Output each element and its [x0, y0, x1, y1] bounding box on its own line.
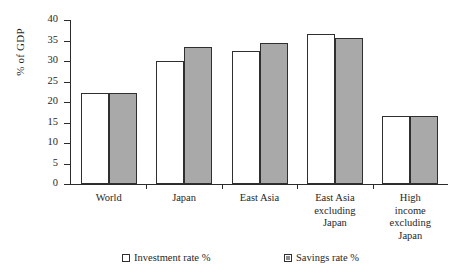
chart-legend: Investment rate % Savings rate % [0, 252, 462, 270]
y-tick-label: 35 [48, 34, 59, 45]
bar-group [81, 20, 137, 184]
y-tick-mark [64, 61, 70, 62]
bar-chart-figure: % of GDP 0510152025303540 WorldJapanEast… [0, 0, 462, 280]
x-category-label: HighincomeexcludingJapan [368, 192, 452, 242]
y-tick-mark [64, 123, 70, 124]
y-tick-label: 15 [48, 116, 59, 127]
bar-investment-rate [232, 51, 260, 184]
x-tick-mark [297, 184, 298, 189]
bar-group [382, 20, 438, 184]
bar-savings-rate [184, 47, 212, 184]
x-tick-mark [373, 184, 374, 189]
bar-investment-rate [156, 61, 184, 184]
x-axis-line [70, 184, 448, 185]
y-tick-mark [64, 143, 70, 144]
filled-square-icon [284, 254, 292, 262]
y-tick-mark [64, 164, 70, 165]
bar-group [307, 20, 363, 184]
y-tick-label: 25 [48, 75, 59, 86]
y-tick-label: 0 [53, 177, 58, 188]
y-tick-mark [64, 20, 70, 21]
legend-label-investment-rate: Investment rate % [134, 252, 210, 263]
y-tick-label: 30 [48, 54, 59, 65]
x-tick-mark [146, 184, 147, 189]
y-tick-mark [64, 102, 70, 103]
bar-group [156, 20, 212, 184]
bar-savings-rate [410, 116, 438, 184]
x-category-label: East Asia [218, 192, 302, 205]
y-tick-mark [64, 82, 70, 83]
plot-area [71, 20, 448, 184]
y-tick-label: 10 [48, 136, 59, 147]
bar-savings-rate [109, 93, 137, 184]
bar-savings-rate [335, 38, 363, 184]
y-tick-mark [64, 184, 70, 185]
bar-investment-rate [81, 93, 109, 184]
open-square-icon [122, 254, 130, 262]
legend-item-savings-rate: Savings rate % [284, 252, 359, 263]
y-tick-label: 5 [53, 157, 58, 168]
bar-investment-rate [307, 34, 335, 184]
bar-investment-rate [382, 116, 410, 184]
y-axis-title: % of GDP [14, 12, 26, 92]
x-tick-mark [222, 184, 223, 189]
bar-savings-rate [260, 43, 288, 184]
y-tick-label: 40 [48, 13, 59, 24]
legend-item-investment-rate: Investment rate % [122, 252, 210, 263]
x-category-label: Japan [142, 192, 226, 205]
y-tick-label: 20 [48, 95, 59, 106]
legend-label-savings-rate: Savings rate % [296, 252, 359, 263]
bar-group [232, 20, 288, 184]
x-category-label: East AsiaexcludingJapan [293, 192, 377, 230]
x-category-label: World [67, 192, 151, 205]
y-tick-mark [64, 41, 70, 42]
